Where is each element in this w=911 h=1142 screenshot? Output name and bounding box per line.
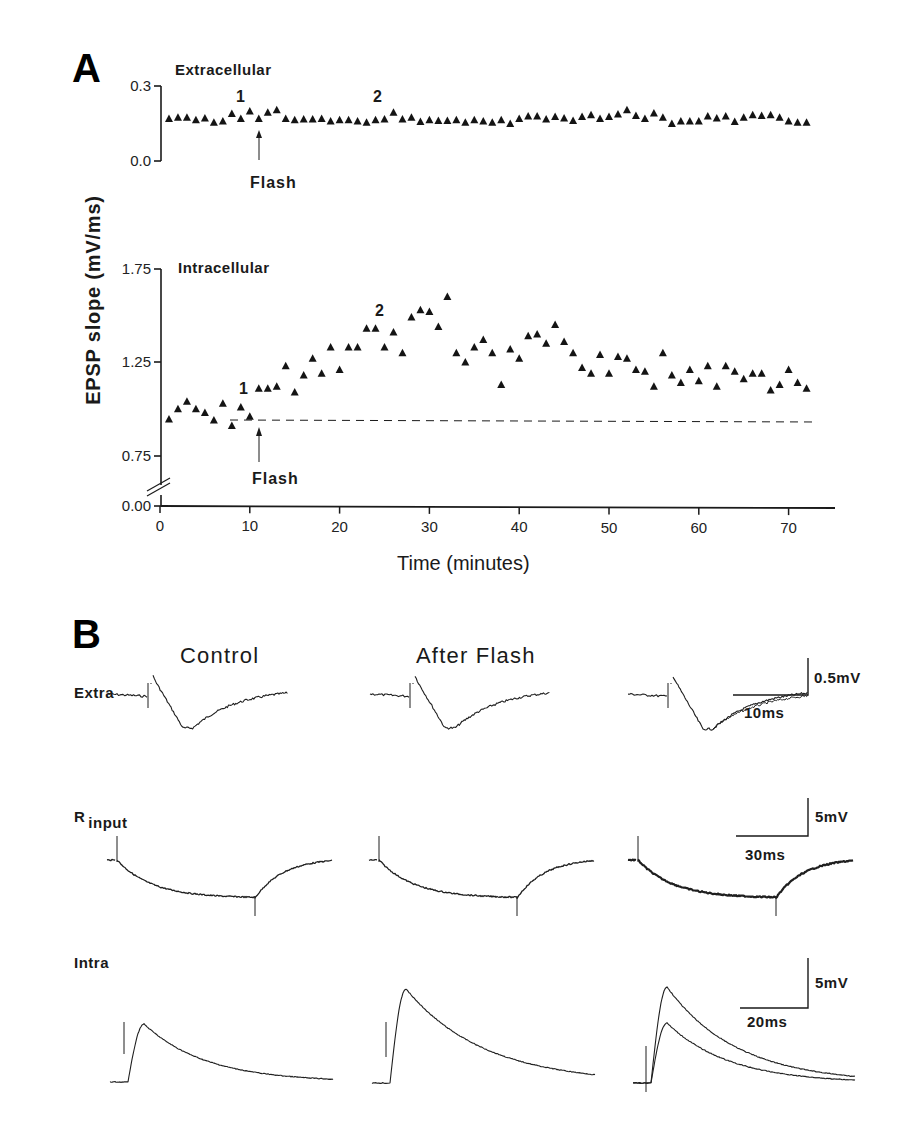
data-point-triangle — [381, 115, 389, 123]
extracellular-title: Extracellular — [175, 61, 272, 78]
rinput-trace-baseline — [628, 860, 636, 861]
data-point-triangle — [327, 117, 335, 125]
flash-arrow-icon — [256, 130, 262, 160]
data-point-triangle — [731, 367, 739, 375]
data-point-triangle — [542, 115, 550, 123]
flash-label: Flash — [252, 470, 299, 487]
scale-voltage-extra: 0.5mV — [814, 669, 861, 686]
data-point-triangle — [758, 112, 766, 120]
data-point-triangle — [731, 118, 739, 126]
row-label-intra: Intra — [74, 954, 109, 971]
data-point-triangle — [354, 343, 362, 351]
data-point-triangle — [416, 306, 424, 314]
data-point-triangle — [192, 405, 200, 413]
scale-time-intra: 20ms — [747, 1013, 787, 1030]
data-point-triangle — [668, 120, 676, 128]
data-point-triangle — [785, 365, 793, 373]
row-label-rinput: Rinput — [74, 808, 128, 831]
data-point-triangle — [389, 108, 397, 116]
y-tick-label: 1.75 — [122, 260, 151, 277]
data-point-triangle — [803, 118, 811, 126]
x-tick-label: 40 — [511, 518, 528, 535]
data-point-triangle — [363, 118, 371, 126]
data-point-triangle — [219, 117, 227, 125]
extracellular-trace-response — [153, 675, 287, 729]
data-point-triangle — [578, 113, 586, 121]
data-point-triangle — [569, 349, 577, 357]
data-point-triangle — [470, 343, 478, 351]
data-point-triangle — [345, 116, 353, 124]
data-point-triangle — [560, 114, 568, 122]
data-point-triangle — [677, 379, 685, 387]
marker-2-label: 2 — [373, 88, 382, 105]
data-point-triangle — [740, 375, 748, 383]
data-point-triangle — [587, 369, 595, 377]
electrophysiology-traces — [107, 675, 855, 1092]
data-point-triangle — [578, 364, 586, 372]
data-point-triangle — [201, 408, 209, 416]
y-tick-label: 0.00 — [122, 497, 151, 514]
data-point-triangle — [659, 113, 667, 121]
data-point-triangle — [336, 116, 344, 124]
scale-time-rinput: 30ms — [745, 846, 785, 863]
data-point-triangle — [596, 351, 604, 359]
data-point-triangle — [255, 115, 263, 123]
data-point-triangle — [713, 114, 721, 122]
data-point-triangle — [228, 422, 236, 430]
data-point-triangle — [165, 415, 173, 423]
data-point-triangle — [291, 116, 299, 124]
x-tick-label: 70 — [780, 519, 797, 536]
data-point-triangle — [228, 110, 236, 118]
marker-2-label: 2 — [375, 302, 384, 319]
data-point-triangle — [758, 369, 766, 377]
data-point-triangle — [264, 108, 272, 116]
flash-arrow-icon — [256, 427, 262, 462]
y-tick-label: 0.3 — [130, 77, 151, 94]
data-point-triangle — [407, 313, 415, 321]
data-point-triangle — [246, 107, 254, 115]
y-tick-label: 0.0 — [130, 152, 151, 169]
x-axis — [161, 506, 835, 508]
data-point-triangle — [165, 115, 173, 123]
intra-trace-superimposed-after — [633, 987, 855, 1083]
data-point-triangle — [560, 337, 568, 345]
x-tick-label: 20 — [331, 518, 348, 535]
data-point-triangle — [506, 120, 514, 128]
data-point-triangle — [443, 117, 451, 125]
rinput-trace-baseline — [107, 859, 115, 860]
data-point-triangle — [533, 112, 541, 120]
data-point-triangle — [569, 117, 577, 125]
data-point-triangle — [542, 339, 550, 347]
data-point-triangle — [282, 362, 290, 370]
data-point-triangle — [650, 109, 658, 117]
data-point-triangle — [524, 332, 532, 340]
data-point-triangle — [488, 118, 496, 126]
data-point-triangle — [641, 115, 649, 123]
y-axis-title: EPSP slope (mV/ms) — [82, 195, 104, 405]
data-point-triangle — [515, 115, 523, 123]
extracellular-trace-response — [415, 676, 549, 729]
intra-trace-control — [110, 1024, 333, 1083]
data-point-triangle — [398, 115, 406, 123]
data-point-triangle — [219, 399, 227, 407]
data-point-triangle — [300, 371, 308, 379]
scale-bar-extra — [733, 658, 808, 695]
data-point-triangle — [776, 113, 784, 121]
marker-1-label: 1 — [239, 380, 248, 397]
data-point-triangle — [452, 116, 460, 124]
data-point-triangle — [443, 293, 451, 301]
data-point-triangle — [497, 380, 505, 388]
data-point-triangle — [452, 349, 460, 357]
data-point-triangle — [273, 106, 281, 114]
data-point-triangle — [264, 384, 272, 392]
data-point-triangle — [713, 382, 721, 390]
x-tick-label: 30 — [421, 518, 438, 535]
data-point-triangle — [623, 106, 631, 114]
data-point-triangle — [174, 405, 182, 413]
panel-a-label: A — [72, 46, 101, 90]
data-point-triangle — [210, 118, 218, 126]
data-point-triangle — [659, 349, 667, 357]
data-point-triangle — [677, 117, 685, 125]
data-point-triangle — [767, 111, 775, 119]
data-point-triangle — [336, 365, 344, 373]
